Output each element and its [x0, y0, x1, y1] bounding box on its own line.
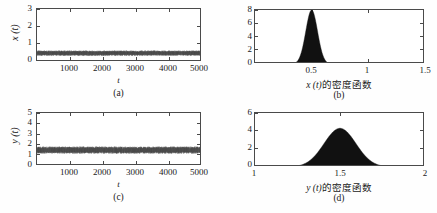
panel-a-xtick-1000: 1000	[55, 64, 83, 73]
panel-c-caption: (c)	[36, 192, 201, 202]
panel-d-ytick-6: 6	[238, 108, 252, 117]
panel-c: y (t) 5 4 3 2 1 0	[0, 103, 218, 213]
panel-d-plot-area	[254, 112, 424, 166]
panel-b-ytick-mark-0	[255, 62, 258, 63]
panel-a-xtick-4000: 4000	[154, 64, 182, 73]
panel-d-xtick-2: 2	[413, 169, 437, 178]
panel-a-ytick-0: 0	[18, 55, 32, 64]
panel-a-xtick-5000: 5000	[185, 64, 213, 73]
panel-d-density-curve	[255, 113, 424, 166]
panel-b-caption: (b)	[254, 90, 424, 100]
panel-c-ytick-2: 2	[18, 139, 32, 148]
panel-c-timeseries	[37, 113, 201, 165]
panel-a-caption: (a)	[36, 88, 201, 98]
panel-c-xtick-mark-5000	[200, 161, 201, 164]
panel-a-xtick-mark-5000	[200, 57, 201, 60]
panel-a-ytick-mark-0	[37, 60, 40, 61]
panel-c-ytick-5: 5	[18, 108, 32, 117]
panel-a-ytick-3: 3	[18, 4, 32, 13]
panel-a-x-axis-title: t	[36, 75, 201, 85]
panel-b-ytick-8: 8	[238, 5, 252, 14]
panel-c-plot-area	[36, 112, 201, 165]
panel-c-xtick-4000: 4000	[154, 168, 182, 177]
panel-c-ytick-0: 0	[18, 160, 32, 169]
panel-a-xtick-3000: 3000	[121, 64, 149, 73]
panel-b-x-axis-title: x (t)的密度函数	[254, 77, 424, 91]
panel-c-x-axis-title: t	[36, 179, 201, 189]
panel-a-ytick-2: 2	[18, 21, 32, 30]
panel-b-xtick-15: 1.5	[411, 66, 437, 75]
panel-b-plot-area	[254, 9, 424, 63]
panel-d-x-axis-title: y (t)的密度函数	[254, 180, 424, 194]
panel-b-ytick-6: 6	[238, 18, 252, 27]
panel-b-ytick-2: 2	[238, 45, 252, 54]
panel-b-xtick-1: 1	[353, 66, 381, 75]
panel-d-ytick-mark-0	[255, 165, 258, 166]
panel-c-xtick-3000: 3000	[121, 168, 149, 177]
panel-d-caption: (d)	[254, 193, 424, 203]
panel-d-xtick-1: 1	[242, 169, 266, 178]
panel-d-ytick-2: 2	[238, 143, 252, 152]
figure-container: x (t) 3 2 1 0	[0, 0, 437, 213]
panel-c-ytick-3: 3	[18, 129, 32, 138]
panel-c-ytick-mark-0	[37, 164, 40, 165]
panel-b-ytick-4: 4	[238, 32, 252, 41]
panel-c-xtick-2000: 2000	[88, 168, 116, 177]
panel-a-ytick-1: 1	[18, 38, 32, 47]
panel-a-xtick-2000: 2000	[88, 64, 116, 73]
panel-c-ytick-1: 1	[18, 150, 32, 159]
panel-a: x (t) 3 2 1 0	[0, 0, 218, 103]
panel-a-plot-area	[36, 8, 201, 61]
panel-d-x-axis-cn: 的密度函数	[322, 182, 372, 193]
panel-d-ytick-0: 0	[238, 160, 252, 169]
panel-b-x-axis-cn: 的密度函数	[322, 79, 372, 90]
panel-b-ytick-0: 0	[238, 58, 252, 67]
panel-c-xtick-1000: 1000	[55, 168, 83, 177]
panel-a-timeseries	[37, 9, 201, 61]
panel-b-xtick-05: 0.5	[297, 66, 325, 75]
panel-b-density-curve	[255, 10, 424, 63]
panel-d-xtick-15: 1.5	[326, 169, 354, 178]
panel-b-x-axis-var: x (t)	[306, 80, 322, 90]
panel-c-ytick-4: 4	[18, 118, 32, 127]
panel-b: 8 6 4 2 0 0.5 1 1.5 x (	[218, 0, 437, 103]
panel-d-x-axis-var: y (t)	[306, 183, 322, 193]
panel-d: 6 4 2 0 1 1.5 2 y (t)的密度函数 (d)	[218, 103, 437, 213]
panel-c-xtick-5000: 5000	[185, 168, 213, 177]
panel-d-ytick-4: 4	[238, 125, 252, 134]
